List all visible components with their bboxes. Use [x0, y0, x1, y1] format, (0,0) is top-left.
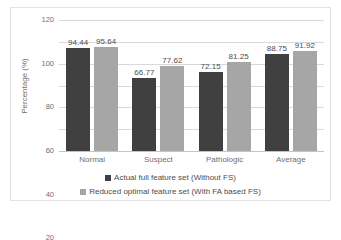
legend-label: Actual full feature set (Without FS): [114, 174, 236, 182]
bar[interactable]: 81.25: [227, 62, 251, 151]
bar[interactable]: 72.15: [199, 72, 223, 151]
bar[interactable]: 95.64: [94, 47, 118, 151]
chart-frame: Percentage (%) 020406080100120 94.4495.6…: [10, 7, 331, 201]
legend-swatch-icon: [80, 189, 86, 195]
x-axis-tick-label: Average: [258, 155, 324, 164]
y-axis-tick-label: 60: [46, 147, 54, 155]
gridline: 0: [59, 151, 324, 152]
bar-value-label: 95.64: [96, 38, 116, 46]
bar-value-label: 91.92: [295, 42, 315, 50]
y-axis-tick-label: 100: [41, 60, 54, 68]
y-axis-tick-label: 80: [46, 104, 54, 112]
bar-group: 72.1581.25: [192, 20, 258, 151]
y-axis-title: Percentage (%): [20, 58, 29, 114]
x-axis-tick-label: Pathologic: [192, 155, 258, 164]
bar[interactable]: 88.75: [265, 54, 289, 151]
bar[interactable]: 94.44: [66, 48, 90, 151]
x-axis-tick-label: Normal: [59, 155, 125, 164]
bar-groups: 94.4495.6466.7777.6272.1581.2588.7591.92: [59, 20, 324, 151]
bar[interactable]: 66.77: [132, 78, 156, 151]
chart-legend: Actual full feature set (Without FS)Redu…: [11, 171, 330, 199]
legend-label: Reduced optimal feature set (With FA bas…: [89, 188, 261, 196]
bar[interactable]: 91.92: [293, 51, 317, 151]
bar-value-label: 94.44: [68, 39, 88, 47]
bar-group: 66.7777.62: [125, 20, 191, 151]
bar[interactable]: 77.62: [160, 66, 184, 151]
y-axis-tick-label: 120: [41, 16, 54, 24]
plot-area: 020406080100120 94.4495.6466.7777.6272.1…: [59, 20, 324, 151]
bar-value-label: 77.62: [162, 57, 182, 65]
legend-swatch-icon: [105, 175, 111, 181]
x-axis-tick-label: Suspect: [125, 155, 191, 164]
legend-item[interactable]: Reduced optimal feature set (With FA bas…: [11, 185, 330, 199]
bar-group: 94.4495.64: [59, 20, 125, 151]
bar-group: 88.7591.92: [258, 20, 324, 151]
bar-value-label: 72.15: [201, 63, 221, 71]
x-axis-labels: NormalSuspectPathologicAverage: [59, 155, 324, 164]
bar-value-label: 66.77: [134, 69, 154, 77]
bar-value-label: 88.75: [267, 45, 287, 53]
bar-value-label: 81.25: [229, 53, 249, 61]
legend-item[interactable]: Actual full feature set (Without FS): [11, 171, 330, 185]
